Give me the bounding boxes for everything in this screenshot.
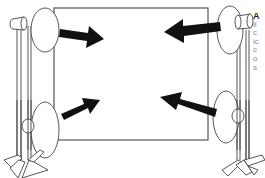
lamp-stand-bottom-right <box>213 91 265 176</box>
lamp-screen-diagram <box>0 0 265 178</box>
caption-line: s <box>253 64 265 73</box>
lamp-stand-bottom-left <box>4 100 59 178</box>
caption-text: A li c ic c o s <box>253 12 265 72</box>
